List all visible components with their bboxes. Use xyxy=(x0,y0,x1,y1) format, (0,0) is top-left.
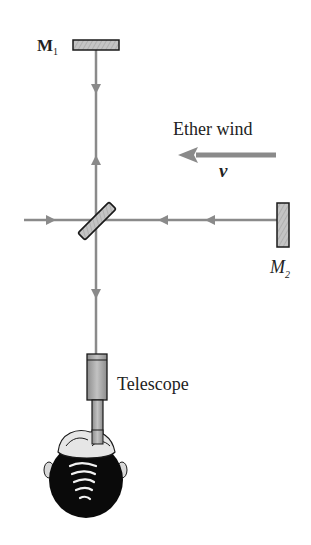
mirror-m1-label: M1 xyxy=(37,36,58,57)
beam-arrow-down-icon xyxy=(91,84,101,94)
beam-arrow-up-icon xyxy=(91,155,101,165)
mirror-m2-label-sub: 2 xyxy=(285,269,290,280)
beam-arrow-left-icon xyxy=(205,215,215,225)
beam-arrow-down-icon xyxy=(91,289,101,299)
observer-head-icon xyxy=(44,430,127,518)
mirror-m1-label-sub: 1 xyxy=(53,46,58,57)
mirror-m2-label: M2 xyxy=(270,257,290,280)
beam-arrow-right-icon xyxy=(46,215,56,225)
telescope-label: Telescope xyxy=(117,374,189,395)
ether-wind-label: Ether wind xyxy=(173,119,252,140)
beam-arrow-left-icon xyxy=(158,215,168,225)
interferometer-diagram xyxy=(0,0,311,545)
velocity-label: v xyxy=(219,160,227,182)
mirror-m2-label-main: M xyxy=(270,257,285,277)
vertical-beam xyxy=(91,50,101,356)
mirror-m1-label-main: M xyxy=(37,36,53,55)
mirror-m2 xyxy=(277,203,289,247)
horizontal-beam xyxy=(24,215,277,225)
mirror-m1 xyxy=(73,40,119,50)
